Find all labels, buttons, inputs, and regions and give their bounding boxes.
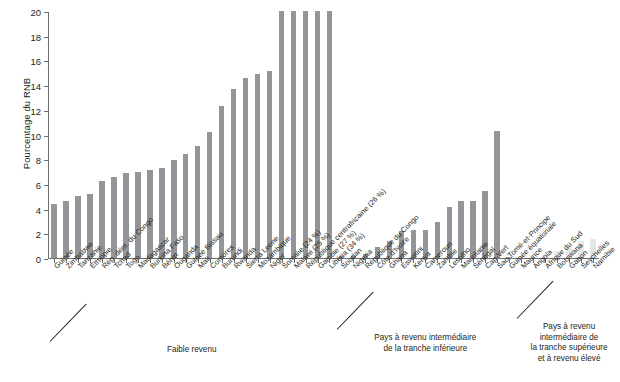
y-tick-label: 18 — [30, 31, 41, 42]
y-axis-title: Pourcentage du RNB — [21, 54, 32, 194]
y-tick — [44, 12, 48, 13]
bar — [231, 89, 237, 258]
bar — [111, 177, 117, 258]
y-axis-line — [48, 12, 49, 259]
group-caption-line: et à revenu élevé — [494, 354, 620, 365]
bar — [315, 11, 321, 258]
bar — [291, 11, 297, 258]
y-tick-label: 2 — [36, 229, 41, 240]
y-tick — [44, 210, 48, 211]
y-tick — [44, 160, 48, 161]
y-tick — [44, 37, 48, 38]
y-tick — [44, 234, 48, 235]
bar — [51, 204, 57, 258]
y-tick-label: 14 — [30, 81, 41, 92]
y-tick — [44, 111, 48, 112]
group-caption-line: Pays à revenu — [494, 322, 620, 333]
bar — [303, 11, 309, 258]
y-tick-label: 12 — [30, 105, 41, 116]
group-leader-line — [517, 281, 554, 319]
bar — [183, 154, 189, 258]
group-caption: Faible revenu — [72, 345, 312, 356]
plot-area: 02468101214161820 — [48, 12, 599, 259]
y-tick-label: 10 — [30, 130, 41, 141]
y-tick — [44, 136, 48, 137]
bar — [255, 74, 261, 258]
bar — [279, 11, 285, 258]
group-caption-line: la tranche supérieure — [494, 343, 620, 354]
y-tick-label: 20 — [30, 7, 41, 18]
y-tick — [44, 86, 48, 87]
bar — [494, 131, 500, 258]
bar — [243, 78, 249, 258]
y-tick-label: 6 — [36, 179, 41, 190]
bar — [327, 11, 333, 258]
group-caption-line: intermédiaire de — [494, 333, 620, 344]
y-tick — [44, 185, 48, 186]
group-caption: Pays à revenuintermédiaire dela tranche … — [494, 322, 620, 364]
bar — [135, 172, 141, 258]
y-tick-label: 16 — [30, 56, 41, 67]
group-leader-line — [337, 292, 374, 330]
y-tick — [44, 259, 48, 260]
y-tick-label: 0 — [36, 254, 41, 265]
y-tick-label: 4 — [36, 204, 41, 215]
bar — [195, 146, 201, 258]
group-leader-line — [50, 304, 87, 342]
y-tick-label: 8 — [36, 155, 41, 166]
bar — [267, 71, 273, 258]
y-tick — [44, 61, 48, 62]
group-caption-line: Faible revenu — [72, 345, 312, 356]
